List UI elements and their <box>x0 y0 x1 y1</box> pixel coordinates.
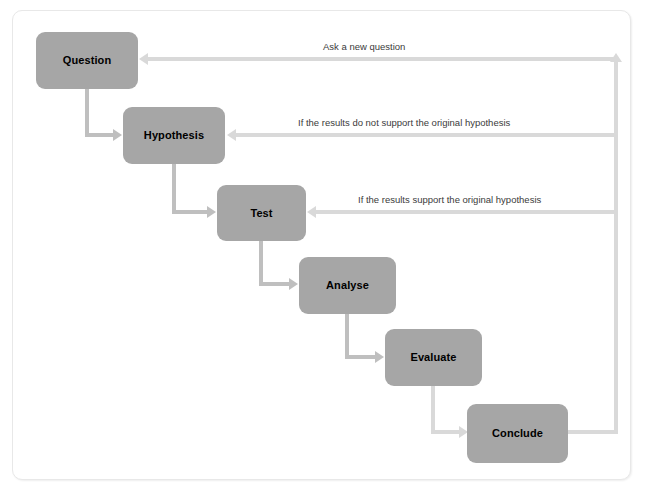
arrow-question-to-hypothesis <box>113 129 122 141</box>
node-conclude-label: Conclude <box>492 427 543 439</box>
connector-question-hypothesis-vertical <box>85 88 89 137</box>
connector-analyse-evaluate-vertical <box>345 313 349 358</box>
flowchart-screenshot: Ask a new question If the results do not… <box>0 0 647 493</box>
feedback-line-to-test <box>316 210 616 214</box>
connector-hypothesis-test-vertical <box>172 163 176 213</box>
connector-hypothesis-test-horizontal <box>172 210 209 214</box>
arrow-hypothesis-to-test <box>207 206 216 218</box>
connector-test-analyse-vertical <box>259 240 263 285</box>
node-evaluate[interactable]: Evaluate <box>385 329 482 386</box>
connector-question-hypothesis-horizontal <box>85 133 115 137</box>
node-question-label: Question <box>63 54 111 66</box>
arrow-test-to-analyse <box>289 278 298 290</box>
node-question[interactable]: Question <box>36 32 138 89</box>
node-analyse-label: Analyse <box>326 279 369 291</box>
arrow-analyse-to-evaluate <box>375 351 384 363</box>
connector-test-analyse-horizontal <box>259 282 291 286</box>
arrow-feedback-to-test <box>307 206 316 218</box>
connector-analyse-evaluate-horizontal <box>345 355 377 359</box>
node-test-label: Test <box>250 207 272 219</box>
node-hypothesis[interactable]: Hypothesis <box>123 107 225 164</box>
connector-evaluate-conclude-horizontal <box>431 430 461 434</box>
feedback-label-ask-new-question: Ask a new question <box>323 41 405 52</box>
feedback-label-not-support: If the results do not support the origin… <box>298 117 510 128</box>
arrow-feedback-to-hypothesis <box>227 129 236 141</box>
connector-evaluate-conclude-vertical <box>431 385 435 434</box>
node-conclude[interactable]: Conclude <box>467 404 568 463</box>
node-test[interactable]: Test <box>217 185 306 241</box>
node-evaluate-label: Evaluate <box>410 351 456 363</box>
feedback-label-support: If the results support the original hypo… <box>358 194 541 205</box>
feedback-line-to-question <box>148 57 616 61</box>
feedback-rail-vertical <box>614 62 618 434</box>
node-analyse[interactable]: Analyse <box>299 257 396 314</box>
arrow-feedback-to-question <box>139 53 148 65</box>
feedback-line-to-hypothesis <box>236 133 616 137</box>
node-hypothesis-label: Hypothesis <box>144 129 204 141</box>
connector-conclude-to-rail <box>566 430 618 434</box>
flowchart-canvas: Ask a new question If the results do not… <box>0 0 647 493</box>
